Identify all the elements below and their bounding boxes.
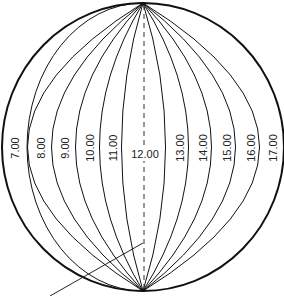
label-13: 13.00 — [174, 134, 186, 162]
pointer-line — [50, 243, 143, 296]
globe-diagram: 7.00 8.00 9.00 10.00 11.00 12.00 13.00 1… — [0, 0, 284, 296]
label-11: 11.00 — [107, 135, 119, 162]
label-9: 9.00 — [59, 137, 71, 158]
label-16: 16.00 — [245, 134, 257, 162]
label-8: 8.00 — [35, 137, 47, 158]
label-15: 15.00 — [221, 134, 233, 162]
label-10: 10.00 — [84, 134, 96, 162]
label-17: 17.00 — [267, 134, 279, 162]
label-7: 7.00 — [9, 137, 21, 158]
label-14: 14.00 — [197, 134, 209, 162]
label-12: 12.00 — [131, 148, 159, 160]
